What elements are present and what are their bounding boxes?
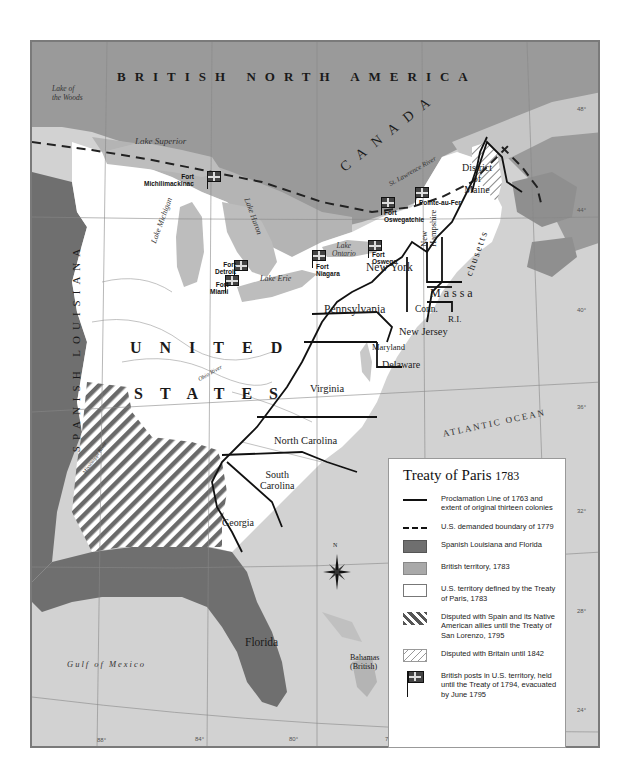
latitude-tick: 24° [577, 707, 586, 713]
dashed-line-icon [403, 527, 427, 529]
label-lake-ontario: Lake Ontario [332, 242, 356, 259]
us-fill-swatch-icon [403, 584, 427, 597]
label-pennsylvania: Pennsylvania [324, 304, 385, 316]
flagpole [312, 250, 313, 268]
longitude-tick: 88° [97, 737, 106, 743]
legend-item-spanish-disputed: Disputed with Spain and its Native Ameri… [397, 612, 557, 640]
label-lake-of-the-woods: Lake of the Woods [52, 84, 83, 102]
label-gulf-of-mexico: Gulf of Mexico [67, 660, 146, 669]
legend-item-us: U.S. territory defined by the Treaty of … [397, 584, 557, 603]
flagpole [381, 197, 382, 215]
british-flag-icon [368, 240, 382, 251]
legend-title: Treaty of Paris 1783 [403, 467, 557, 484]
label-rhode-island: R.I. [448, 315, 462, 324]
legend-item-british-disputed: Disputed with Britain until 1842 [397, 649, 557, 662]
heavy-hatch-swatch-icon [403, 612, 427, 625]
flagpole [207, 171, 208, 189]
label-lake-erie: Lake Erie [260, 275, 291, 283]
label-lake-superior: Lake Superior [135, 137, 186, 146]
british-flag-icon [415, 187, 429, 198]
latitude-tick: 44° [577, 207, 586, 213]
label-connecticut: Conn. [415, 305, 438, 315]
legend: Treaty of Paris 1783 Proclamation Line o… [388, 458, 566, 748]
british-flag-icon [207, 171, 221, 182]
label-united: UNITED [130, 340, 300, 356]
label-maryland: Maryland [372, 343, 405, 352]
label-georgia: Georgia [222, 518, 254, 528]
british-flag-icon [234, 260, 248, 271]
label-spanish-louisiana: SPANISH LOUISIANA [71, 243, 82, 452]
latitude-tick: 32° [577, 508, 586, 514]
label-new-jersey: New Jersey [399, 327, 448, 338]
legend-item-british-posts: British posts in U.S. territory, held un… [397, 671, 557, 699]
label-massachusetts: Massa [430, 287, 476, 299]
spanish-fill-swatch-icon [403, 540, 427, 553]
latitude-tick: 48° [577, 106, 586, 112]
british-fill-swatch-icon [403, 562, 427, 575]
compass-north-label: N [333, 542, 337, 548]
latitude-tick: 40° [577, 307, 586, 313]
latitude-tick: 36° [577, 404, 586, 410]
legend-item-spanish: Spanish Louisiana and Florida [397, 540, 557, 553]
label-bahamas: Bahamas [350, 654, 379, 662]
light-hatch-swatch-icon [403, 649, 427, 662]
latitude-tick: 28° [577, 608, 586, 614]
label-british-north-america: BRITISH NORTH AMERICA [117, 70, 477, 83]
legend-item-british: British territory, 1783 [397, 562, 557, 575]
label-north-carolina: North Carolina [274, 436, 337, 447]
label-bahamas-british: (British) [350, 663, 377, 671]
label-florida: Florida [245, 637, 278, 649]
solid-line-icon [403, 499, 427, 501]
legend-item-proclamation-line: Proclamation Line of 1763 and extent of … [397, 494, 557, 513]
label-district-of-maine: District of Maine [462, 162, 492, 195]
label-virginia: Virginia [310, 384, 344, 395]
longitude-tick: 80° [289, 736, 298, 742]
legend-item-demanded-boundary: U.S. demanded boundary of 1779 [397, 522, 557, 531]
label-states: STATES [134, 386, 295, 402]
flagpole [368, 240, 369, 258]
british-flag-icon [403, 671, 427, 697]
british-flag-icon [312, 250, 326, 261]
flagpole [415, 187, 416, 205]
longitude-tick: 84° [195, 736, 204, 742]
label-delaware: Delaware [382, 360, 420, 370]
label-south-carolina: South Carolina [260, 469, 294, 491]
british-flag-icon [381, 197, 395, 208]
